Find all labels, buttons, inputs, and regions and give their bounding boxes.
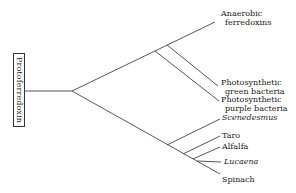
leaf-scenedesmus: Scenedesmus <box>222 113 277 122</box>
leaf-green-bacteria: Photosynthetic green bacteria <box>221 78 285 96</box>
branch-taro <box>183 136 220 154</box>
phylogenetic-tree: Protoferredoxin Anaerobic ferredoxins Ph… <box>0 0 296 193</box>
branch-scenedesmus <box>167 119 220 145</box>
root-node-box: Protoferredoxin <box>13 53 25 127</box>
leaf-spinach: Spinach <box>222 175 255 184</box>
leaf-anaerobic-ferredoxins: Anaerobic ferredoxins <box>221 9 271 27</box>
leaf-purple-bacteria: Photosynthetic purple bacteria <box>221 95 288 113</box>
leaf-label-line1: Photosynthetic <box>221 78 282 87</box>
branch-lucaena <box>197 161 221 162</box>
branch-purple-bacteria <box>155 51 219 101</box>
leaf-label-line2: purple bacteria <box>221 104 288 113</box>
leaf-label-line1: Photosynthetic <box>221 95 282 104</box>
leaf-lucaena: Lucaena <box>224 157 258 166</box>
leaf-label-line1: Anaerobic <box>221 9 262 18</box>
leaf-alfalfa: Alfalfa <box>222 142 248 151</box>
branch-spinach <box>72 91 220 174</box>
leaf-label-line2: ferredoxins <box>221 18 271 27</box>
root-node-label: Protoferredoxin <box>15 57 24 123</box>
leaf-taro: Taro <box>222 131 240 140</box>
branch-alfalfa <box>193 147 220 159</box>
